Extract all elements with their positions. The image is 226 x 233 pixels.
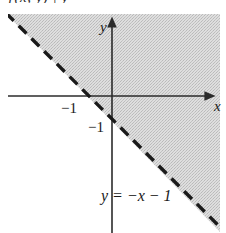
boundary-line-equation-label: y = −x − 1 <box>100 188 173 204</box>
y-axis-tick-label-negative-one: −1 <box>88 120 104 135</box>
inequality-graph-figure: {(x, y) | y <box>0 0 226 233</box>
x-axis-tick-label-negative-one: −1 <box>61 101 77 116</box>
y-axis-label: y <box>100 20 107 35</box>
x-axis-label: x <box>214 99 221 114</box>
